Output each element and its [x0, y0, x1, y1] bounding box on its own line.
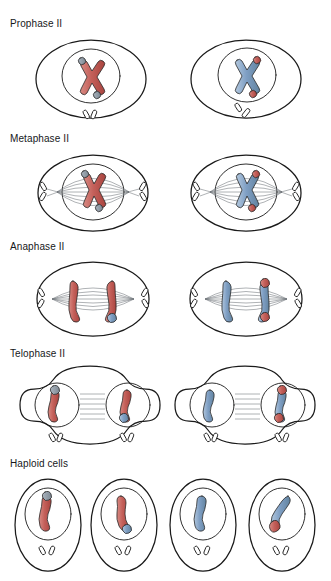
cell-telophase-left [20, 366, 160, 444]
cell-anaphase-left [37, 262, 149, 336]
centriole-pair-left-pole [192, 182, 200, 202]
row-anaphase-2 [37, 262, 302, 336]
centriole-pair-left-pole [39, 182, 47, 202]
centriole-pair-right-pole [141, 288, 149, 309]
centriole-pair-left-pole [190, 288, 198, 309]
centriole-pair [234, 103, 250, 119]
spindle-fibers [80, 394, 105, 419]
row-metaphase-2 [38, 155, 301, 231]
spindle-fibers [235, 394, 260, 419]
centriole-pair-right-pole [294, 288, 302, 309]
centriole-pair-right-pole [292, 182, 300, 202]
row-haploid-cells [15, 479, 315, 571]
chromosome-red [78, 57, 105, 99]
cell-haploid-1 [15, 479, 81, 571]
centriole-pair-right [274, 433, 289, 443]
cell-haploid-3 [170, 479, 236, 571]
row-prophase-2 [36, 40, 301, 119]
chromatid-left-red [69, 281, 80, 322]
cell-anaphase-right [190, 262, 302, 336]
chromatid-red-right-nucleus [119, 390, 131, 423]
chromosome-blue [235, 56, 261, 98]
cell-metaphase-right [191, 155, 301, 231]
chromatid-blue-right-nucleus [274, 385, 286, 422]
meiosis-ii-diagram: Prophase II Metaphase II Anaphase II Tel… [0, 0, 331, 581]
cell-prophase-right [191, 40, 301, 118]
diagram-canvas [0, 0, 331, 581]
cell-prophase-left [36, 40, 146, 119]
chromatid-left-blue [222, 281, 233, 322]
spindle-fibers [205, 288, 287, 310]
centriole-pair-left-pole [37, 288, 45, 309]
spindle-fibers [52, 288, 134, 310]
centriole-pair [272, 546, 289, 556]
chromatid-right-red [258, 278, 269, 322]
cell-metaphase-left [38, 155, 148, 231]
cell-telophase-right [175, 366, 315, 444]
chromatid-right-red [105, 281, 116, 323]
centriole-pair-right-pole [139, 182, 147, 202]
cell-haploid-2 [91, 479, 157, 571]
cell-haploid-4 [249, 479, 315, 571]
chromatid-red-left-nucleus [48, 385, 60, 422]
centriole-pair [114, 546, 131, 556]
centriole-pair [38, 546, 55, 556]
centriole-pair-right [119, 433, 134, 443]
chromatid-blue-left-nucleus [203, 390, 214, 422]
row-telophase-2 [20, 366, 315, 444]
centriole-pair [193, 546, 210, 556]
